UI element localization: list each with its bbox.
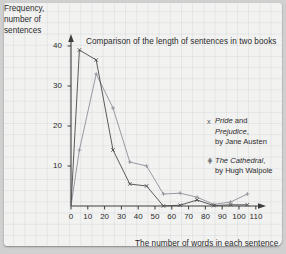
legend-item-pride-and-prejudice: x Pride and Prejudice, by Jane Austen xyxy=(207,116,282,148)
legend-label-line-1: Pride and Prejudice, xyxy=(207,116,282,137)
legend-comma-1: , xyxy=(247,127,249,136)
x-tick-label-70: 70 xyxy=(181,212,197,221)
x-tick-label-60: 60 xyxy=(164,212,180,221)
y-tick-label-40: 40 xyxy=(42,41,62,50)
x-tick-label-80: 80 xyxy=(197,212,213,221)
x-axis-arrow xyxy=(258,203,266,209)
y-tick-label-10: 10 xyxy=(42,161,62,170)
x-tick-label-110: 110 xyxy=(247,212,265,221)
legend-item-the-cathedral: ⋕ The Cathedral, by Hugh Walpole xyxy=(207,156,282,177)
x-tick-label-30: 30 xyxy=(113,212,129,221)
chart-title: Comparison of the length of sentences in… xyxy=(86,37,276,46)
y-tick-label-30: 30 xyxy=(42,81,62,90)
legend-book-title-prejudice: Prejudice xyxy=(215,127,247,136)
screenshot-root: Comparison of the length of sentences in… xyxy=(0,0,286,254)
legend-marker-cross-icon: ⋕ xyxy=(207,156,213,167)
y-tick-label-20: 20 xyxy=(42,121,62,130)
x-tick-label-100: 100 xyxy=(230,212,248,221)
chart-legend: x Pride and Prejudice, by Jane Austen ⋕ … xyxy=(207,116,282,185)
chart-sheet: Comparison of the length of sentences in… xyxy=(4,3,282,246)
legend-conjunction: and xyxy=(233,116,248,125)
x-tick-label-40: 40 xyxy=(130,212,146,221)
legend-marker-x-icon: x xyxy=(207,117,211,128)
x-tick-label-50: 50 xyxy=(147,212,163,221)
y-axis-arrow xyxy=(68,34,74,42)
x-tick-label-10: 10 xyxy=(80,212,96,221)
x-tick-label-20: 20 xyxy=(97,212,113,221)
x-tick-label-90: 90 xyxy=(214,212,230,221)
x-tick-label-0: 0 xyxy=(63,212,79,221)
legend-author-austen: by Jane Austen xyxy=(207,137,282,148)
x-axis-title: The number of words in each sentence xyxy=(135,239,278,246)
legend-label-line-2: The Cathedral, xyxy=(207,156,282,167)
legend-book-title-cathedral: The Cathedral xyxy=(215,156,263,165)
legend-comma-2: , xyxy=(263,156,265,165)
legend-book-title-pride: Pride xyxy=(215,116,233,125)
legend-author-walpole: by Hugh Walpole xyxy=(207,166,282,177)
